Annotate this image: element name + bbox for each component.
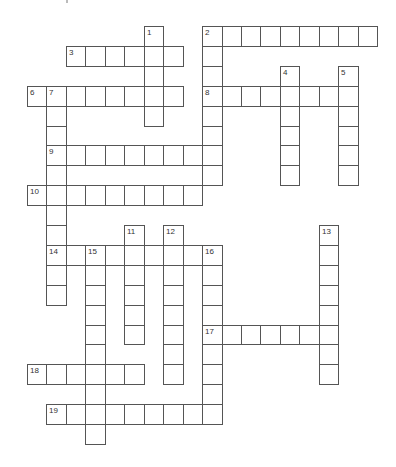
crossword-cell[interactable] [105, 245, 125, 266]
crossword-cell[interactable] [46, 205, 67, 226]
crossword-cell[interactable] [280, 26, 300, 47]
crossword-cell[interactable] [202, 285, 223, 306]
crossword-cell[interactable] [202, 46, 223, 67]
crossword-cell[interactable] [124, 364, 145, 385]
crossword-cell[interactable] [46, 285, 67, 306]
crossword-cell[interactable]: 2 [202, 26, 223, 47]
crossword-cell[interactable] [222, 325, 242, 345]
crossword-cell[interactable] [202, 106, 223, 127]
crossword-cell[interactable] [85, 384, 106, 405]
crossword-cell[interactable] [319, 344, 339, 365]
crossword-cell[interactable] [338, 165, 359, 186]
crossword-cell[interactable] [46, 225, 67, 246]
crossword-cell[interactable] [105, 46, 125, 67]
crossword-cell[interactable]: 17 [202, 325, 223, 345]
crossword-cell[interactable] [260, 86, 281, 107]
crossword-cell[interactable] [202, 265, 223, 286]
crossword-cell[interactable] [105, 364, 125, 385]
crossword-cell[interactable] [338, 126, 359, 146]
crossword-cell[interactable] [163, 185, 184, 206]
crossword-cell[interactable] [124, 245, 145, 266]
crossword-cell[interactable] [85, 46, 106, 67]
crossword-cell[interactable] [163, 404, 184, 425]
crossword-cell[interactable] [319, 245, 339, 266]
crossword-cell[interactable] [202, 305, 223, 326]
crossword-cell[interactable] [85, 145, 106, 166]
crossword-cell[interactable] [46, 364, 67, 385]
crossword-cell[interactable] [105, 145, 125, 166]
crossword-cell[interactable] [202, 66, 223, 87]
crossword-cell[interactable] [85, 265, 106, 286]
crossword-cell[interactable] [46, 185, 67, 206]
crossword-cell[interactable] [163, 364, 184, 385]
crossword-cell[interactable] [338, 145, 359, 166]
crossword-cell[interactable] [124, 46, 145, 67]
crossword-cell[interactable]: 11 [124, 225, 145, 246]
crossword-cell[interactable] [319, 285, 339, 306]
crossword-cell[interactable] [241, 325, 261, 345]
crossword-cell[interactable]: 1 [144, 26, 164, 47]
crossword-cell[interactable]: 4 [280, 66, 300, 87]
crossword-cell[interactable] [319, 265, 339, 286]
crossword-cell[interactable] [66, 145, 86, 166]
crossword-cell[interactable] [222, 26, 242, 47]
crossword-cell[interactable]: 9 [46, 145, 67, 166]
crossword-cell[interactable]: 18 [27, 364, 47, 385]
crossword-cell[interactable]: 14 [46, 245, 67, 266]
crossword-cell[interactable] [85, 424, 106, 445]
crossword-cell[interactable] [144, 86, 164, 107]
crossword-cell[interactable] [144, 404, 164, 425]
crossword-cell[interactable] [299, 86, 320, 107]
crossword-cell[interactable] [124, 185, 145, 206]
crossword-cell[interactable] [299, 26, 320, 47]
crossword-cell[interactable] [105, 185, 125, 206]
crossword-cell[interactable] [105, 404, 125, 425]
crossword-cell[interactable] [144, 245, 164, 266]
crossword-cell[interactable] [66, 364, 86, 385]
crossword-cell[interactable] [338, 106, 359, 127]
crossword-cell[interactable] [183, 404, 203, 425]
crossword-cell[interactable] [124, 145, 145, 166]
crossword-cell[interactable]: 7 [46, 86, 67, 107]
crossword-cell[interactable] [163, 285, 184, 306]
crossword-cell[interactable] [163, 245, 184, 266]
crossword-cell[interactable] [183, 145, 203, 166]
crossword-cell[interactable] [202, 165, 223, 186]
crossword-cell[interactable] [358, 26, 378, 47]
crossword-cell[interactable] [163, 305, 184, 326]
crossword-cell[interactable] [46, 106, 67, 127]
crossword-cell[interactable] [85, 86, 106, 107]
crossword-cell[interactable] [280, 325, 300, 345]
crossword-cell[interactable] [46, 165, 67, 186]
crossword-cell[interactable] [66, 185, 86, 206]
crossword-cell[interactable] [46, 265, 67, 286]
crossword-cell[interactable] [85, 364, 106, 385]
crossword-cell[interactable] [85, 404, 106, 425]
crossword-cell[interactable] [144, 66, 164, 87]
crossword-cell[interactable] [319, 305, 339, 326]
crossword-cell[interactable] [163, 325, 184, 345]
crossword-cell[interactable] [163, 344, 184, 365]
crossword-cell[interactable]: 10 [27, 185, 47, 206]
crossword-cell[interactable]: 6 [27, 86, 47, 107]
crossword-cell[interactable]: 15 [85, 245, 106, 266]
crossword-cell[interactable] [66, 86, 86, 107]
crossword-cell[interactable] [260, 325, 281, 345]
crossword-cell[interactable] [105, 86, 125, 107]
crossword-cell[interactable] [202, 126, 223, 146]
crossword-cell[interactable] [85, 344, 106, 365]
crossword-cell[interactable] [202, 344, 223, 365]
crossword-cell[interactable]: 13 [319, 225, 339, 246]
crossword-cell[interactable] [163, 46, 184, 67]
crossword-cell[interactable] [241, 26, 261, 47]
crossword-cell[interactable] [163, 145, 184, 166]
crossword-cell[interactable] [202, 384, 223, 405]
crossword-cell[interactable] [144, 145, 164, 166]
crossword-cell[interactable] [124, 86, 145, 107]
crossword-cell[interactable] [280, 86, 300, 107]
crossword-cell[interactable] [85, 285, 106, 306]
crossword-cell[interactable] [85, 305, 106, 326]
crossword-cell[interactable] [338, 26, 359, 47]
crossword-cell[interactable] [85, 185, 106, 206]
crossword-cell[interactable] [260, 26, 281, 47]
